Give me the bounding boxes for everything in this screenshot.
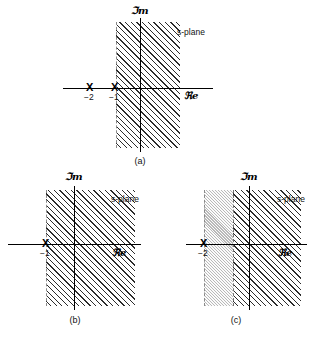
panel-c: X −2 ℑm ℜe s-plane (c) xyxy=(156,170,312,337)
s-plane-label: s-plane xyxy=(111,195,139,204)
roc-stippled-region xyxy=(204,190,233,306)
tick-label-minus-one: −1 xyxy=(40,249,50,258)
imaginary-axis xyxy=(249,186,250,310)
roc-boundary-line-inner xyxy=(233,190,234,306)
real-axis-label: ℜe xyxy=(278,248,292,258)
roc-hatched-region xyxy=(116,22,180,148)
imaginary-axis xyxy=(140,18,141,152)
imaginary-axis xyxy=(74,186,75,310)
s-plane-label: s-plane xyxy=(277,195,305,204)
pole-leader-line-minus-one xyxy=(100,88,109,89)
imaginary-axis-label: ℑm xyxy=(240,172,258,182)
panel-a: X X −2 −1 ℑm ℜe s-plane (a) xyxy=(0,0,312,170)
tick-label-minus-two: −2 xyxy=(198,249,208,258)
imaginary-axis-label: ℑm xyxy=(131,6,149,16)
s-plane-label: s-plane xyxy=(177,28,205,37)
panel-caption-a: (a) xyxy=(120,157,160,166)
real-axis-label: ℜe xyxy=(184,91,198,101)
pole-leader-line-minus-two xyxy=(189,244,198,245)
imaginary-axis-label: ℑm xyxy=(65,172,83,182)
pole-leader-line-minus-two xyxy=(75,88,84,89)
real-axis-label: ℜe xyxy=(112,248,126,258)
panel-b: X −1 ℑm ℜe s-plane (b) xyxy=(0,170,156,337)
tick-label-minus-two: −2 xyxy=(84,93,94,102)
panel-caption-c: (c) xyxy=(216,316,256,325)
panel-caption-b: (b) xyxy=(55,316,95,325)
tick-label-minus-one: −1 xyxy=(109,93,119,102)
